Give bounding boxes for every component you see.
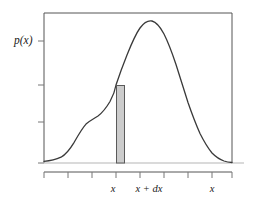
density-curve [44,21,232,163]
x-tick-label-x-lower: x [110,183,116,194]
y-axis-ticks [38,41,44,163]
x-tick-label-x-plus-dx: x + dx [135,183,163,194]
probability-strip [117,86,125,164]
x-tick-label-x-right: x [209,183,215,194]
plot-canvas: p(x) x x + dx x [0,0,254,198]
y-axis-label: p(x) [13,34,33,47]
x-axis-ticks [44,172,232,178]
probability-density-figure: p(x) x x + dx x [0,0,254,198]
